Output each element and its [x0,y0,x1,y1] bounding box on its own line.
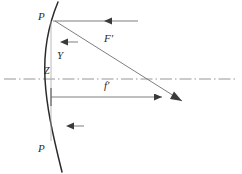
aperture-marker-lower-arrowhead-icon [66,123,74,130]
label-p-top: P [38,11,45,22]
label-p-bottom: P [38,143,45,154]
label-height-y: Y [57,50,63,61]
optical-diagram-figure: P P Z Y F' f' [0,0,242,174]
label-focal-point-f-prime: F' [104,33,113,44]
aperture-marker-upper-arrowhead-icon [60,39,68,46]
incident-ray-arrowhead-icon [104,18,112,25]
refracted-ray [55,21,182,101]
lens-surface-curve [45,2,62,172]
label-vertex-z: Z [44,66,50,76]
label-focal-length-f-prime: f' [104,80,109,91]
optical-diagram-canvas [0,0,242,174]
refracted-ray-arrowhead-icon [170,92,182,102]
